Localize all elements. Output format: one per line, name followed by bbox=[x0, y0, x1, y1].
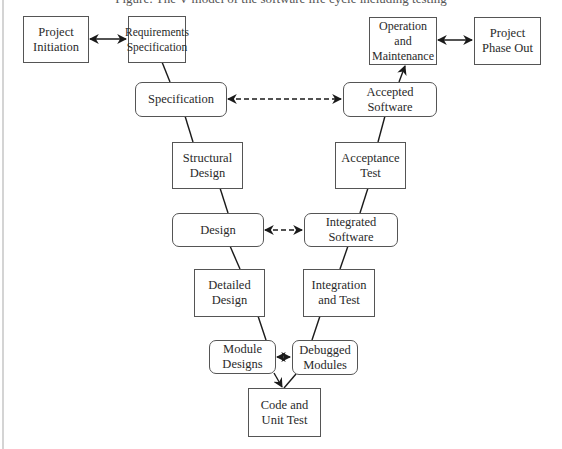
label-line: Software bbox=[326, 230, 377, 245]
label-line: Test bbox=[341, 166, 399, 181]
label-line: Module bbox=[222, 342, 262, 357]
label-line: Specification bbox=[148, 92, 214, 107]
node-accepted-software: AcceptedSoftware bbox=[343, 82, 437, 117]
label-line: Design bbox=[200, 223, 235, 238]
label-line: Unit Test bbox=[261, 413, 309, 428]
label-line: Initiation bbox=[33, 40, 79, 55]
label-line: Accepted bbox=[366, 85, 413, 100]
label-line: Maintenance bbox=[372, 49, 434, 64]
node-project-phase-out: ProjectPhase Out bbox=[474, 17, 541, 65]
node-operation-maintenance: Operation andMaintenance bbox=[369, 17, 437, 65]
node-module-designs: ModuleDesigns bbox=[209, 340, 276, 374]
node-code-unit-test: Code andUnit Test bbox=[248, 388, 321, 437]
edge-specification-structural bbox=[185, 116, 193, 142]
edge-requirements-specification bbox=[162, 62, 170, 82]
node-integration-test: Integrationand Test bbox=[303, 269, 375, 317]
label-line: Integrated bbox=[326, 215, 377, 230]
label-line: Project bbox=[482, 26, 533, 41]
node-structural-design: StructuralDesign bbox=[172, 142, 243, 189]
label-line: Specification bbox=[125, 40, 189, 55]
node-specification: Specification bbox=[135, 82, 227, 117]
edge-debugged-integration bbox=[312, 316, 320, 340]
label-line: Project bbox=[33, 25, 79, 40]
node-acceptance-test: AcceptanceTest bbox=[335, 142, 406, 189]
edge-code-debugged bbox=[284, 374, 296, 388]
label-line: Software bbox=[366, 100, 413, 115]
edge-accepted-operation bbox=[399, 66, 405, 82]
label-line: Acceptance bbox=[341, 151, 399, 166]
label-line: and Test bbox=[312, 293, 367, 308]
edge-integration-integrated bbox=[340, 246, 348, 269]
label-line: Detailed bbox=[208, 278, 250, 293]
edge-detailed-module bbox=[258, 316, 266, 340]
edge-design-detailed bbox=[230, 246, 240, 269]
label-line: Integration bbox=[312, 278, 367, 293]
node-project-initiation: ProjectInitiation bbox=[23, 16, 89, 63]
label-line: Requirements bbox=[125, 25, 189, 40]
label-line: Debugged bbox=[299, 343, 350, 358]
node-requirements-specification: RequirementsSpecification bbox=[128, 16, 186, 63]
label-line: Design bbox=[208, 293, 250, 308]
label-line: Structural bbox=[183, 151, 232, 166]
label-line: Modules bbox=[299, 358, 350, 373]
node-design: Design bbox=[172, 213, 264, 247]
edge-module-code bbox=[274, 373, 282, 387]
node-detailed-design: DetailedDesign bbox=[194, 269, 265, 317]
label-line: Design bbox=[183, 166, 232, 181]
label-line: Designs bbox=[222, 357, 262, 372]
edge-acceptance-accepted bbox=[378, 116, 385, 142]
edge-structural-design bbox=[220, 188, 228, 213]
label-line: Code and bbox=[261, 398, 309, 413]
node-integrated-software: IntegratedSoftware bbox=[304, 213, 398, 247]
node-debugged-modules: DebuggedModules bbox=[292, 340, 358, 375]
label-line: Phase Out bbox=[482, 41, 533, 56]
label-line: Operation and bbox=[372, 19, 434, 49]
connector-layer bbox=[0, 0, 562, 449]
edge-integrated-acceptance bbox=[360, 188, 368, 213]
